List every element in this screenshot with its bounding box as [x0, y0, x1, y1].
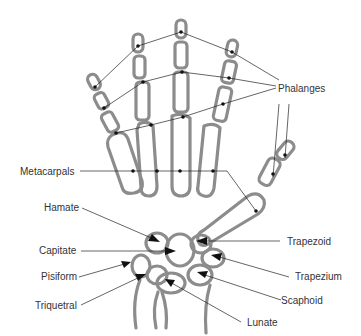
- label-phalanges: Phalanges: [278, 84, 325, 94]
- label-triquetral: Triquetral: [35, 301, 77, 311]
- label-pisiform: Pisiform: [41, 272, 77, 282]
- bones: [86, 20, 296, 333]
- label-trapezium: Trapezium: [295, 272, 342, 282]
- label-scaphoid: Scaphoid: [281, 296, 323, 306]
- label-hamate: Hamate: [44, 203, 79, 213]
- label-trapezoid: Trapezoid: [287, 237, 331, 247]
- label-metacarpals: Metacarpals: [20, 167, 74, 177]
- label-lunate: Lunate: [247, 318, 278, 328]
- label-capitate: Capitate: [39, 246, 76, 256]
